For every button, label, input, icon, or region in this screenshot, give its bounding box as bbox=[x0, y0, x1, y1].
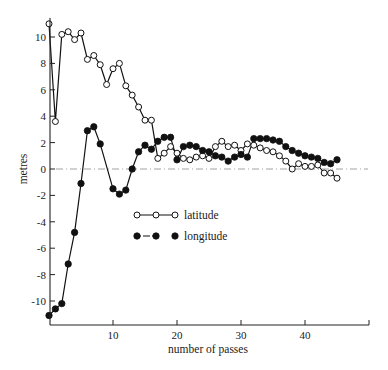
filled-circle-icon bbox=[153, 233, 159, 239]
longitude-line bbox=[49, 127, 337, 316]
x-tick-label: 10 bbox=[108, 329, 120, 341]
longitude-data-point bbox=[295, 150, 301, 156]
x-ticks: 10203040 bbox=[108, 320, 312, 341]
longitude-data-point bbox=[65, 261, 71, 267]
latitude-data-point bbox=[219, 138, 225, 144]
longitude-data-point bbox=[238, 151, 244, 157]
longitude-data-point bbox=[199, 147, 205, 153]
latitude-data-point bbox=[206, 155, 212, 161]
latitude-data-point bbox=[174, 150, 180, 156]
latitude-data-point bbox=[65, 29, 71, 35]
latitude-data-point bbox=[168, 144, 174, 150]
y-tick-label: -10 bbox=[31, 295, 46, 307]
y-tick-label: 6 bbox=[41, 84, 47, 96]
longitude-data-point bbox=[71, 229, 77, 235]
latitude-data-point bbox=[251, 142, 257, 148]
longitude-data-point bbox=[212, 153, 218, 159]
longitude-data-point bbox=[193, 143, 199, 149]
longitude-data-point bbox=[187, 142, 193, 148]
latitude-data-point bbox=[84, 56, 90, 62]
y-tick-label: -2 bbox=[37, 189, 46, 201]
latitude-data-point bbox=[91, 53, 97, 59]
latitude-data-point bbox=[308, 163, 314, 169]
y-ticks: 1086420-2-4-6-8-10 bbox=[31, 31, 55, 307]
longitude-data-point bbox=[97, 141, 103, 147]
y-tick-label: 8 bbox=[41, 57, 47, 69]
longitude-data-point bbox=[315, 155, 321, 161]
legend-label-longitude: longitude bbox=[184, 230, 227, 243]
longitude-data-point bbox=[155, 138, 161, 144]
x-tick-label: 40 bbox=[300, 329, 312, 341]
latitude-data-point bbox=[78, 30, 84, 36]
longitude-data-point bbox=[321, 159, 327, 165]
longitude-data-point bbox=[84, 128, 90, 134]
latitude-data-point bbox=[270, 149, 276, 155]
latitude-data-point bbox=[72, 37, 78, 43]
legend-item-longitude: longitude bbox=[134, 230, 228, 243]
latitude-data-point bbox=[104, 82, 110, 88]
open-circle-icon bbox=[153, 212, 159, 218]
longitude-data-point bbox=[161, 134, 167, 140]
latitude-data-point bbox=[136, 104, 142, 110]
x-axis-label: number of passes bbox=[168, 343, 248, 356]
latitude-data-point bbox=[155, 155, 161, 161]
latitude-data-point bbox=[225, 144, 231, 150]
longitude-data-point bbox=[276, 138, 282, 144]
longitude-data-point bbox=[123, 187, 129, 193]
latitude-data-point bbox=[142, 117, 148, 123]
longitude-data-point bbox=[270, 137, 276, 143]
latitude-data-point bbox=[283, 158, 289, 164]
longitude-data-point bbox=[308, 154, 314, 160]
longitude-data-point bbox=[91, 124, 97, 130]
longitude-data-point bbox=[244, 154, 250, 160]
longitude-data-point bbox=[135, 149, 141, 155]
latitude-data-point bbox=[46, 21, 52, 27]
series-longitude-markers bbox=[46, 124, 340, 319]
longitude-data-point bbox=[257, 135, 263, 141]
longitude-data-point bbox=[148, 146, 154, 152]
latitude-data-point bbox=[123, 83, 129, 89]
latitude-data-point bbox=[321, 170, 327, 176]
y-tick-label: 0 bbox=[41, 163, 47, 175]
y-tick-label: -8 bbox=[37, 269, 47, 281]
longitude-data-point bbox=[174, 157, 180, 163]
longitude-data-point bbox=[206, 149, 212, 155]
latitude-data-point bbox=[302, 163, 308, 169]
latitude-data-point bbox=[110, 66, 116, 72]
longitude-data-point bbox=[167, 134, 173, 140]
longitude-data-point bbox=[231, 154, 237, 160]
latitude-data-point bbox=[296, 161, 302, 167]
longitude-data-point bbox=[110, 186, 116, 192]
longitude-data-point bbox=[142, 142, 148, 148]
series-latitude-markers bbox=[46, 21, 340, 181]
longitude-data-point bbox=[116, 191, 122, 197]
latitude-data-point bbox=[232, 142, 238, 148]
longitude-data-point bbox=[52, 306, 58, 312]
open-circle-icon bbox=[172, 212, 178, 218]
y-tick-label: 2 bbox=[41, 137, 47, 149]
legend-label-latitude: latitude bbox=[184, 209, 219, 221]
latitude-data-point bbox=[97, 62, 103, 68]
latitude-data-point bbox=[264, 148, 270, 154]
latitude-data-point bbox=[289, 166, 295, 172]
longitude-data-point bbox=[78, 180, 84, 186]
y-tick-label: 4 bbox=[41, 110, 47, 122]
legend-item-latitude: latitude bbox=[134, 209, 219, 221]
series-longitude bbox=[49, 127, 337, 316]
latitude-data-point bbox=[315, 162, 321, 168]
longitude-data-point bbox=[327, 161, 333, 167]
y-tick-label: -4 bbox=[37, 216, 47, 228]
series-latitude bbox=[49, 24, 337, 178]
latitude-data-point bbox=[180, 155, 186, 161]
longitude-data-point bbox=[302, 153, 308, 159]
plot-area bbox=[46, 21, 368, 319]
x-axis: 10203040 number of passes bbox=[50, 320, 369, 356]
latitude-data-point bbox=[116, 60, 122, 66]
longitude-data-point bbox=[225, 158, 231, 164]
longitude-data-point bbox=[251, 135, 257, 141]
y-axis: 1086420-2-4-6-8-10 metres bbox=[17, 18, 55, 325]
latitude-data-point bbox=[161, 150, 167, 156]
longitude-data-point bbox=[180, 143, 186, 149]
latitude-data-point bbox=[328, 170, 334, 176]
chart: 1086420-2-4-6-8-10 metres 10203040 numbe… bbox=[0, 0, 388, 370]
